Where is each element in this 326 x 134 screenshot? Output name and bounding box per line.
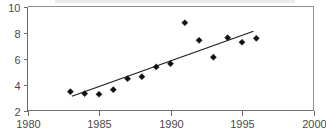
trend-line [72, 31, 254, 96]
x-tick-label: 2000 [302, 118, 326, 130]
data-point [67, 89, 73, 95]
x-tick-label: 1985 [87, 118, 111, 130]
data-point [239, 39, 245, 45]
data-point [139, 74, 145, 80]
y-tick-label: 8 [14, 28, 20, 40]
x-tick-label: 1995 [230, 118, 254, 130]
data-point [96, 91, 102, 97]
y-tick-label: 4 [14, 80, 20, 92]
x-axis: 19801985199019952000 [16, 111, 326, 130]
data-point [196, 37, 202, 43]
clipped-title-remnant [55, 0, 295, 3]
data-point [182, 20, 188, 26]
chart-canvas: 246810 19801985199019952000 [0, 0, 326, 134]
y-axis: 246810 [8, 2, 27, 118]
y-tick-label: 2 [14, 106, 20, 118]
x-tick-label: 1990 [159, 118, 183, 130]
data-point [82, 91, 88, 97]
trend-line-group [72, 31, 254, 96]
data-point [110, 87, 116, 93]
y-tick-label: 10 [8, 2, 20, 14]
data-point-group [67, 20, 259, 98]
x-tick-label: 1980 [16, 118, 40, 130]
scatter-chart: 246810 19801985199019952000 [0, 0, 326, 134]
data-point [210, 54, 216, 60]
data-point [253, 35, 259, 41]
y-tick-label: 6 [14, 54, 20, 66]
